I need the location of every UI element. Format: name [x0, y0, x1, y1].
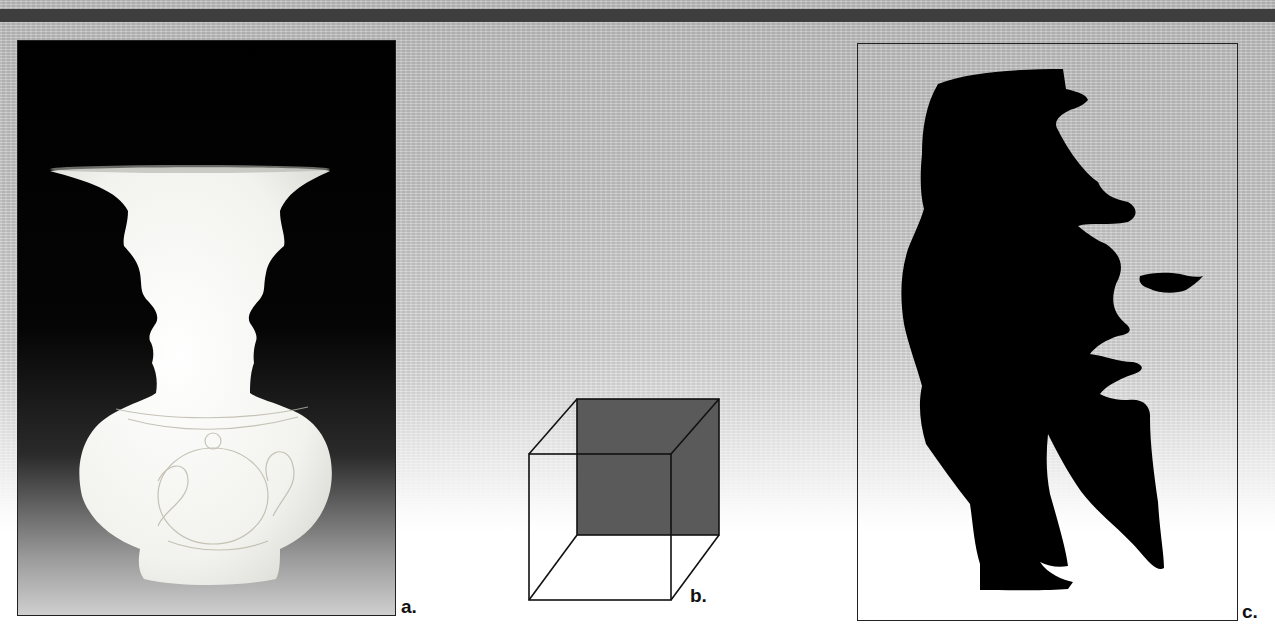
vase-faces-illusion-image [18, 41, 396, 616]
necker-cube-drawing [524, 394, 724, 606]
panel-b-label: b. [690, 585, 707, 607]
panel-c-saxophonist [857, 43, 1238, 621]
panel-a-vase-photo [17, 40, 396, 616]
panel-c-label: c. [1242, 601, 1258, 623]
saxophonist-face-silhouette [858, 44, 1236, 619]
panel-a-label: a. [401, 596, 417, 618]
panel-b-necker-cube [524, 394, 724, 606]
header-bar [0, 9, 1275, 22]
